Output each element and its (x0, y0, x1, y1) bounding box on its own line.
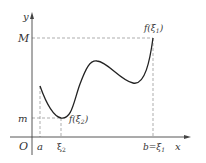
y-axis-label: y (22, 11, 29, 22)
min-value-label: m (18, 113, 27, 124)
guide-lines (32, 38, 153, 137)
x-axis-label: x (175, 141, 181, 152)
min-point-label: f(ξ2) (68, 114, 89, 125)
xi2-label: ξ2 (57, 142, 66, 153)
function-diagram: y M m O a ξ2 b=ξ1 x f(ξ1) f(ξ2) (0, 0, 206, 163)
axes (10, 16, 187, 155)
max-point-label: f(ξ1) (143, 23, 164, 34)
max-value-label: M (17, 32, 30, 45)
y-axis-arrow-icon (30, 12, 34, 19)
x-axis-arrow-icon (184, 135, 191, 139)
a-label: a (37, 141, 43, 152)
function-curve (40, 38, 153, 118)
origin-label: O (19, 140, 28, 153)
b-equals-xi1-label: b=ξ1 (143, 142, 165, 153)
